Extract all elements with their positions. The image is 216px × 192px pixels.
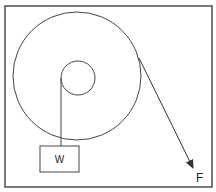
inner-axle bbox=[61, 61, 95, 95]
diagram-frame bbox=[5, 6, 212, 187]
load-label: W bbox=[55, 154, 65, 165]
force-label: F bbox=[196, 171, 203, 185]
wheel-and-axle-diagram: W F bbox=[0, 0, 216, 192]
force-arrow bbox=[139, 58, 193, 168]
outer-wheel bbox=[13, 12, 141, 140]
